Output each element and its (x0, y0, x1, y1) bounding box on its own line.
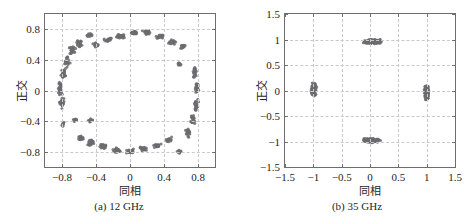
y-tick-mark (285, 142, 288, 143)
y-tick-mark (452, 91, 455, 92)
x-tick-label: 1.5 (448, 171, 462, 183)
y-tick-label: 1.5 (266, 8, 280, 20)
gridline-horizontal (285, 142, 455, 143)
y-tick-mark (285, 91, 288, 92)
x-tick-mark (398, 164, 399, 167)
y-tick-mark (452, 116, 455, 117)
x-tick-mark (62, 164, 63, 167)
y-tick-label: −1 (268, 136, 280, 148)
x-axis-label-b: 同相 (284, 185, 456, 198)
y-tick-mark (45, 29, 48, 30)
plot-area-a (44, 13, 216, 168)
x-tick-mark (96, 14, 97, 17)
x-tick-label: 0.4 (157, 171, 171, 183)
x-tick-mark (130, 164, 131, 167)
x-tick-mark (398, 14, 399, 17)
x-tick-mark (370, 164, 371, 167)
x-tick-mark (130, 14, 131, 17)
y-tick-mark (45, 121, 48, 122)
x-tick-mark (370, 14, 371, 17)
y-tick-mark (285, 65, 288, 66)
gridline-horizontal (285, 116, 455, 117)
caption-a: (a) 12 GHz (0, 200, 238, 213)
x-tick-mark (313, 14, 314, 17)
gridline-horizontal (45, 152, 215, 153)
y-tick-mark (285, 167, 288, 168)
x-tick-mark (342, 14, 343, 17)
x-tick-label: −0.5 (332, 171, 352, 183)
x-tick-mark (313, 164, 314, 167)
x-tick-mark (455, 164, 456, 167)
gridline-horizontal (45, 91, 215, 92)
x-tick-label: −0.8 (52, 171, 72, 183)
y-tick-mark (212, 60, 215, 61)
figure-constellation-diagrams: −0.8−0.400.40.80.80.40−0.4−0.8 正交 同相 (a)… (0, 0, 476, 222)
y-tick-label: 0 (275, 85, 281, 97)
x-tick-mark (62, 14, 63, 17)
y-axis-label-b: 正交 (256, 60, 269, 120)
y-tick-mark (45, 152, 48, 153)
plot-area-b (284, 13, 456, 168)
y-tick-label: −1.5 (260, 161, 280, 173)
y-tick-label: −0.8 (20, 146, 40, 158)
y-tick-mark (452, 40, 455, 41)
y-tick-mark (452, 14, 455, 15)
x-tick-mark (198, 164, 199, 167)
panel-a-12ghz: −0.8−0.400.40.80.80.40−0.4−0.8 正交 同相 (a)… (0, 0, 238, 222)
y-tick-label: 1 (275, 34, 281, 46)
x-tick-label: 0 (367, 171, 373, 183)
x-tick-mark (342, 164, 343, 167)
y-tick-mark (285, 40, 288, 41)
x-tick-mark (164, 164, 165, 167)
x-tick-label: 0.8 (191, 171, 205, 183)
caption-b: (b) 35 GHz (238, 200, 476, 213)
gridline-horizontal (45, 121, 215, 122)
y-tick-mark (452, 65, 455, 66)
gridline-horizontal (45, 29, 215, 30)
x-axis-label-a: 同相 (44, 185, 216, 198)
x-tick-mark (455, 14, 456, 17)
y-tick-mark (285, 116, 288, 117)
y-tick-mark (212, 152, 215, 153)
x-tick-mark (427, 164, 428, 167)
y-tick-mark (452, 167, 455, 168)
x-tick-mark (164, 14, 165, 17)
x-tick-label: −0.4 (86, 171, 106, 183)
y-tick-label: 0.8 (26, 23, 40, 35)
gridline-horizontal (285, 40, 455, 41)
y-tick-mark (45, 60, 48, 61)
gridline-horizontal (285, 65, 455, 66)
y-tick-label: 0 (35, 85, 41, 97)
gridline-horizontal (285, 91, 455, 92)
x-tick-label: −1 (307, 171, 319, 183)
x-tick-label: 0 (127, 171, 133, 183)
x-tick-label: 0.5 (391, 171, 405, 183)
y-axis-label-a: 正交 (16, 60, 29, 120)
x-tick-mark (198, 14, 199, 17)
y-tick-mark (285, 14, 288, 15)
y-tick-mark (212, 91, 215, 92)
y-tick-mark (452, 142, 455, 143)
y-tick-mark (212, 121, 215, 122)
x-tick-mark (96, 164, 97, 167)
x-tick-label: 1 (424, 171, 430, 183)
x-tick-mark (427, 14, 428, 17)
gridline-horizontal (45, 60, 215, 61)
y-tick-mark (45, 91, 48, 92)
y-tick-mark (212, 29, 215, 30)
panel-b-35ghz: −1.5−1−0.500.511.51.510.50−0.5−1−1.5 正交 … (238, 0, 476, 222)
